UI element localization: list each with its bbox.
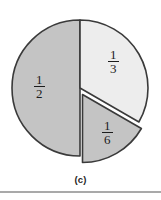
- slice-label-one-sixth-denominator: 6: [102, 133, 113, 146]
- slice-label-one-half-numerator: 1: [34, 73, 45, 87]
- figure-caption: (c): [0, 174, 161, 185]
- slice-label-one-half-denominator: 2: [34, 87, 45, 100]
- slice-label-one-third: 1 3: [108, 48, 119, 75]
- slice-label-one-sixth: 1 6: [102, 119, 113, 146]
- pie-chart-figure: 1 2 1 3 1 6 (c): [0, 0, 161, 200]
- pie-chart-graphic: [0, 0, 161, 200]
- slice-label-one-half: 1 2: [34, 73, 45, 100]
- slice-label-one-third-denominator: 3: [108, 62, 119, 75]
- slice-label-one-third-numerator: 1: [108, 48, 119, 62]
- slice-label-one-sixth-numerator: 1: [102, 119, 113, 133]
- pie-slice-one-half: [12, 20, 80, 156]
- figure-divider-rule: [0, 191, 161, 193]
